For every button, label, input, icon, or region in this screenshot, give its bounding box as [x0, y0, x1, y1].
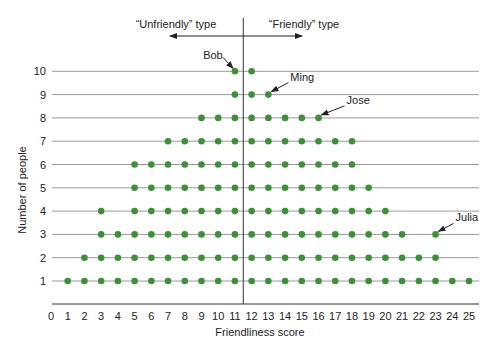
data-dot [399, 231, 406, 238]
data-dot [98, 231, 105, 238]
data-dot [98, 254, 105, 261]
data-dot [232, 278, 239, 285]
data-dot [349, 138, 356, 145]
annotation-ming: Ming [290, 71, 314, 83]
x-tick-label: 20 [379, 310, 391, 322]
data-dot [382, 278, 389, 285]
data-dot [248, 115, 255, 122]
y-tick-label: 4 [40, 205, 46, 217]
data-dot [232, 231, 239, 238]
annotation-jose: Jose [347, 94, 370, 106]
data-dot [282, 115, 289, 122]
data-dot [215, 208, 222, 215]
data-dot [198, 138, 205, 145]
data-dot [215, 115, 222, 122]
y-tick-labels: 12345678910 [34, 65, 46, 287]
x-axis-label: Friendliness score [215, 326, 304, 338]
data-dot [299, 115, 306, 122]
data-dot [232, 68, 239, 75]
data-dot [299, 138, 306, 145]
data-dot [81, 278, 88, 285]
data-dot [332, 208, 339, 215]
x-tick-label: 11 [229, 310, 240, 322]
data-dot [248, 185, 255, 192]
data-dot [349, 161, 356, 168]
data-dot [315, 185, 322, 192]
data-dot [399, 278, 406, 285]
data-dot [165, 138, 172, 145]
data-dot [299, 231, 306, 238]
data-dot [365, 231, 372, 238]
data-dot [148, 208, 155, 215]
x-tick-label: 15 [296, 310, 308, 322]
y-tick-label: 1 [40, 275, 46, 287]
x-tick-label: 19 [363, 310, 375, 322]
data-dot [349, 254, 356, 261]
data-dot [265, 91, 272, 98]
data-dot [332, 185, 339, 192]
data-dot [165, 208, 172, 215]
data-dot [215, 185, 222, 192]
data-dot [315, 208, 322, 215]
x-tick-label: 18 [346, 310, 358, 322]
data-dot [232, 161, 239, 168]
data-dot [282, 185, 289, 192]
data-dot [416, 254, 423, 261]
data-dot [181, 254, 188, 261]
data-dot [248, 254, 255, 261]
x-tick-label: 25 [463, 310, 475, 322]
data-dot [198, 185, 205, 192]
data-dot [449, 278, 456, 285]
data-dot [315, 161, 322, 168]
data-dot [349, 278, 356, 285]
data-dot [198, 254, 205, 261]
data-dot [248, 138, 255, 145]
data-dot [299, 161, 306, 168]
data-dot [232, 254, 239, 261]
data-dot [265, 278, 272, 285]
data-dot [148, 254, 155, 261]
data-dot [115, 231, 122, 238]
y-tick-label: 6 [40, 159, 46, 171]
data-dot [232, 138, 239, 145]
y-tick-label: 10 [34, 65, 46, 77]
data-dot [365, 254, 372, 261]
data-dot [131, 208, 138, 215]
x-tick-label: 0 [48, 310, 54, 322]
y-tick-label: 7 [40, 135, 46, 147]
data-dot [282, 208, 289, 215]
data-dot [165, 185, 172, 192]
data-dot [165, 254, 172, 261]
data-dot [232, 185, 239, 192]
data-dot [148, 185, 155, 192]
annotation-julia: Julia [456, 211, 480, 223]
data-dot [365, 208, 372, 215]
annotation-arrow-icon [322, 106, 345, 115]
data-dot [232, 208, 239, 215]
data-dot [115, 278, 122, 285]
data-dot [148, 231, 155, 238]
data-dot [165, 278, 172, 285]
data-dot [148, 161, 155, 168]
x-tick-label: 4 [115, 310, 121, 322]
y-tick-label: 9 [40, 89, 46, 101]
data-dot [315, 138, 322, 145]
unfriendly-type-label: “Unfriendly” type [136, 18, 217, 30]
data-dot [131, 278, 138, 285]
x-tick-label: 17 [329, 310, 341, 322]
data-dot [131, 231, 138, 238]
data-dot [248, 161, 255, 168]
data-dot [232, 115, 239, 122]
data-dot [332, 231, 339, 238]
x-tick-label: 24 [446, 310, 458, 322]
data-dot [315, 115, 322, 122]
data-dot [432, 231, 439, 238]
data-dot [248, 231, 255, 238]
data-dot [282, 231, 289, 238]
data-dot [198, 208, 205, 215]
data-dot [198, 161, 205, 168]
data-dot [399, 254, 406, 261]
data-dot [248, 208, 255, 215]
data-dot [432, 254, 439, 261]
data-dot [198, 278, 205, 285]
